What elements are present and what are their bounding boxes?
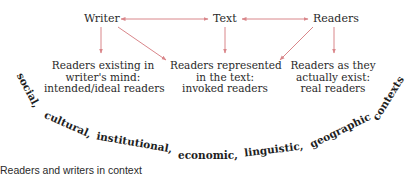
node-text: Text bbox=[213, 12, 237, 25]
box-real-line3: real readers bbox=[287, 83, 379, 95]
figure-caption: Readers and writers in context bbox=[0, 164, 142, 176]
box-real-line1: Readers as they bbox=[287, 60, 379, 72]
box-invoked-line3: invoked readers bbox=[170, 83, 280, 95]
box-invoked-line1: Readers represented bbox=[170, 60, 280, 72]
node-readers: Readers bbox=[313, 12, 359, 25]
node-writer: Writer bbox=[84, 12, 120, 25]
box-ideal-line3: intended/ideal readers bbox=[44, 83, 162, 95]
context-economic: economic, bbox=[178, 149, 238, 161]
box-invoked-readers: Readers represented in the text: invoked… bbox=[170, 60, 280, 95]
readers-writers-diagram: Writer Text Readers Readers existing in … bbox=[0, 0, 413, 181]
box-ideal-readers: Readers existing in writer's mind: inten… bbox=[44, 60, 162, 95]
box-ideal-line1: Readers existing in bbox=[44, 60, 162, 72]
arrow-writer-invoked bbox=[118, 27, 166, 60]
arrow-readers-invoked bbox=[280, 27, 313, 60]
box-real-readers: Readers as they actually exist: real rea… bbox=[287, 60, 379, 95]
